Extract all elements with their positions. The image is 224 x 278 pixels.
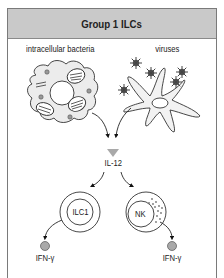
bacteria-to-il12-arrow xyxy=(92,113,108,136)
ilc1-label: ILC1 xyxy=(72,207,88,217)
il12-label: IL-12 xyxy=(105,158,122,168)
nk-cell-icon xyxy=(126,192,166,232)
infected-macrophage-icon xyxy=(28,61,98,123)
ilc1-ifn-gamma-label: IFN-γ xyxy=(36,253,55,263)
nk-label: NK xyxy=(135,209,146,219)
intracellular-bacteria-label: intracellular bacteria xyxy=(26,44,94,54)
viruses-label: viruses xyxy=(155,44,179,54)
il12-to-nk-arrow xyxy=(121,172,132,186)
nk-ifn-gamma-dot xyxy=(168,242,177,251)
virus-to-il12-arrow xyxy=(116,108,131,136)
il12-triangle-icon xyxy=(107,149,119,157)
il12-to-ilc1-arrow xyxy=(92,172,104,186)
dendritic-cell-icon xyxy=(124,68,200,132)
ilc1-ifn-gamma-dot xyxy=(41,242,50,251)
ilc1-to-ifn-arrow xyxy=(45,220,62,238)
nk-ifn-gamma-label: IFN-γ xyxy=(163,253,182,263)
